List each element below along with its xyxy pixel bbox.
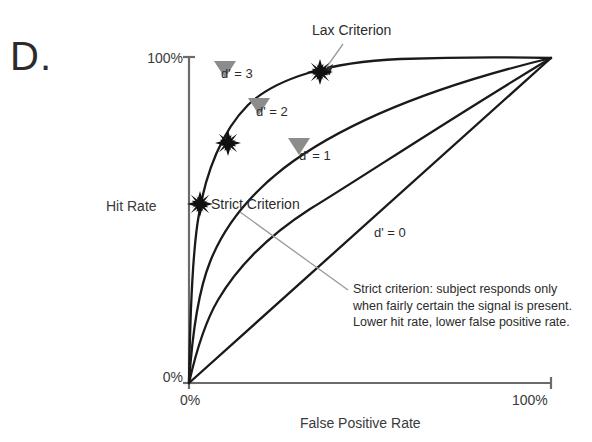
roc-curve-dprime-0 xyxy=(189,58,551,383)
star-marker-strict-criterion-dprime3 xyxy=(187,191,213,217)
curve-label-dprime-0: d' = 0 xyxy=(374,225,406,240)
lax-criterion-label: Lax Criterion xyxy=(312,22,391,38)
roc-plot-canvas xyxy=(0,0,592,442)
star-marker-lax-criterion xyxy=(307,59,333,85)
curve-label-dprime-2: d' = 2 xyxy=(256,104,288,119)
x-axis-tick-label-100: 100% xyxy=(512,392,548,408)
y-axis-tick-label-0: 0% xyxy=(135,369,183,385)
criterion-star-markers xyxy=(187,59,333,217)
strict-criterion-label: Strict Criterion xyxy=(211,196,300,212)
y-axis-title: Hit Rate xyxy=(106,198,157,214)
curve-label-dprime-3: d' = 3 xyxy=(221,66,253,81)
strict-criterion-note: Strict criterion: subject responds only … xyxy=(353,281,585,331)
curve-label-dprime-1: d' = 1 xyxy=(299,148,331,163)
y-axis-tick-label-100: 100% xyxy=(135,50,183,66)
roc-figure-panel-d: D. xyxy=(0,0,592,442)
x-axis-tick-label-0: 0% xyxy=(180,392,200,408)
star-marker-strict-criterion-dprime2 xyxy=(215,130,241,156)
x-axis-title: False Positive Rate xyxy=(300,415,421,431)
